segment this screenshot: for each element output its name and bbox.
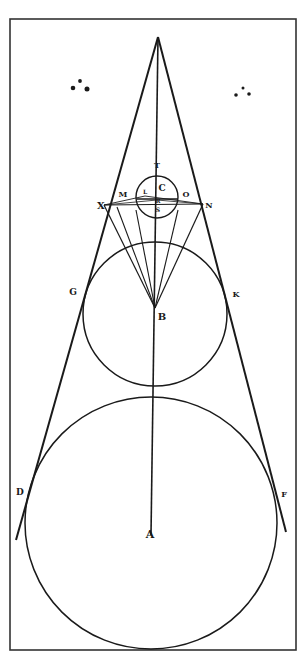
label-x: X [97,200,105,211]
label-n: N [205,200,212,210]
label-d: D [16,487,24,497]
label-m: M [119,189,128,199]
label-o: O [183,189,190,199]
label-f: F [281,489,287,499]
label-g: G [69,287,77,297]
label-t: T [154,160,160,170]
geometric-diagram: T C L M O R S X N G K B D F A [0,0,302,662]
label-s: S [156,206,160,213]
label-c: C [158,183,165,193]
paper-background [0,0,302,662]
label-a: A [145,528,155,541]
label-k: K [233,289,241,299]
label-b: B [158,311,166,322]
